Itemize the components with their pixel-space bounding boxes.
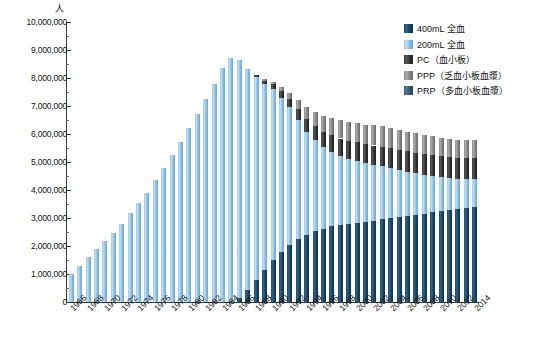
bar-segment	[153, 180, 158, 302]
bar-segment	[439, 138, 444, 157]
bar-segment	[279, 98, 284, 252]
bar-1996	[321, 116, 326, 302]
bar-segment	[271, 82, 276, 85]
y-axis-tick-label: 2,000,000	[0, 246, 67, 256]
bar-1972	[119, 224, 124, 302]
bar-segment	[405, 132, 410, 152]
legend-item-label: 200mL 全血	[417, 38, 465, 51]
bar-2008	[422, 135, 427, 302]
bar-segment	[388, 218, 393, 302]
bar-segment	[388, 128, 393, 148]
bar-segment	[397, 130, 402, 150]
bar-1970	[102, 241, 107, 302]
bar-segment	[371, 221, 376, 302]
bar-2005	[397, 130, 402, 302]
bar-segment	[279, 87, 284, 91]
bar-segment	[178, 142, 183, 302]
bar-segment	[355, 161, 360, 223]
bar-2004	[388, 128, 393, 302]
y-axis-unit-label: 人	[55, 2, 64, 15]
y-axis-tick-label: 1,000,000	[0, 274, 67, 284]
bar-segment	[338, 156, 343, 225]
bar-segment	[413, 215, 418, 302]
bar-segment	[363, 163, 368, 222]
bar-segment	[321, 147, 326, 228]
bar-segment	[363, 144, 368, 163]
bar-segment	[313, 126, 318, 140]
bar-segment	[287, 99, 292, 107]
y-axis-tick-label: 9,000,000	[0, 50, 67, 60]
bar-segment	[346, 122, 351, 141]
bar-segment	[413, 153, 418, 173]
bar-segment	[144, 193, 149, 302]
bar-2002	[371, 125, 376, 302]
bar-segment	[397, 150, 402, 170]
bar-1995	[313, 112, 318, 302]
bar-segment	[195, 114, 200, 302]
bar-segment	[439, 211, 444, 302]
bar-segment	[262, 79, 267, 80]
bar-2014	[472, 140, 477, 302]
bar-1988	[254, 75, 259, 302]
bar-1983	[212, 84, 217, 302]
bar-segment	[254, 77, 259, 280]
bar-segment	[338, 225, 343, 302]
bar-segment	[237, 60, 242, 298]
bar-segment	[430, 176, 435, 212]
bar-2012	[455, 140, 460, 302]
bar-segment	[245, 69, 250, 290]
bar-1999	[346, 122, 351, 302]
bar-1984	[220, 68, 225, 302]
bar-segment	[313, 140, 318, 231]
bar-1973	[128, 213, 133, 302]
bar-segment	[321, 132, 326, 148]
bar-segment	[355, 142, 360, 161]
bar-segment	[262, 81, 267, 84]
legend-item-ppp: PPP（乏血小板血漿）	[404, 69, 549, 82]
bar-segment	[220, 68, 225, 302]
bar-segment	[329, 118, 334, 135]
bar-segment	[186, 128, 191, 302]
bar-1975	[144, 193, 149, 302]
bar-2003	[380, 126, 385, 302]
bar-1977	[161, 168, 166, 302]
bar-2010	[439, 138, 444, 302]
legend-item-prp: PRP（多血小板血漿）	[404, 84, 549, 97]
bar-segment	[313, 112, 318, 126]
bar-segment	[472, 140, 477, 158]
legend-swatch-icon	[404, 71, 413, 80]
bar-segment	[464, 158, 469, 179]
bar-2011	[447, 139, 452, 302]
bar-segment	[455, 209, 460, 302]
bar-segment	[363, 222, 368, 302]
bar-1980	[186, 128, 191, 302]
y-axis-tick-label: 4,000,000	[0, 190, 67, 200]
bar-segment	[422, 154, 427, 174]
legend-item-label: PRP（多血小板血漿）	[417, 84, 508, 97]
y-axis-tick-label: 7,000,000	[0, 106, 67, 116]
bar-1992	[287, 93, 292, 302]
bar-segment	[380, 147, 385, 167]
bar-segment	[472, 158, 477, 179]
bar-segment	[472, 179, 477, 207]
bar-2007	[413, 133, 418, 302]
bar-segment	[287, 93, 292, 99]
y-axis-tick-label: 10,000,000	[0, 22, 67, 32]
bar-segment	[296, 109, 301, 120]
bar-segment	[405, 172, 410, 217]
bar-segment	[371, 125, 376, 145]
y-axis-tick-label: 6,000,000	[0, 134, 67, 144]
bar-segment	[413, 133, 418, 153]
bar-1982	[203, 99, 208, 302]
bar-1990	[271, 82, 276, 302]
bar-segment	[262, 84, 267, 270]
y-axis-tick-label: 0	[0, 302, 67, 312]
bar-1981	[195, 114, 200, 302]
bar-1976	[153, 180, 158, 302]
bar-1974	[136, 203, 141, 302]
bar-2001	[363, 124, 368, 302]
bar-segment	[128, 213, 133, 302]
bar-2009	[430, 136, 435, 302]
bar-segment	[346, 224, 351, 302]
bar-1993	[296, 100, 301, 302]
